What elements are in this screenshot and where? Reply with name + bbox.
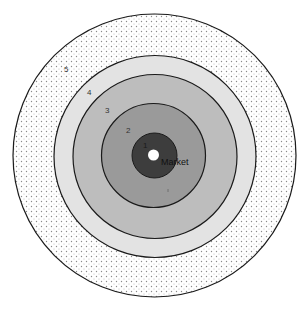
ring-label-5: 5 (64, 65, 69, 74)
ring-label-2: 2 (126, 126, 131, 135)
market-label: Market (161, 157, 189, 167)
ring-label-4: 4 (87, 88, 92, 97)
market-center-dot (148, 150, 159, 161)
concentric-ring-diagram: 5 4 3 2 1 Market (0, 0, 307, 311)
ring-label-1: 1 (143, 141, 148, 150)
ring-label-3: 3 (105, 106, 110, 115)
